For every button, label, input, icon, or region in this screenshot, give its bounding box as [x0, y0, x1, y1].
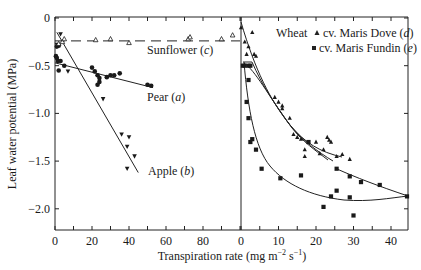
triangle-down-marker-icon	[101, 97, 106, 101]
y-axis-label: Leaf water potential (MPa)	[5, 59, 19, 189]
circle-marker-icon	[58, 59, 63, 64]
triangle-up-marker-icon	[314, 140, 318, 144]
triangle-down-marker-icon	[132, 154, 137, 158]
square-marker-icon	[246, 116, 250, 120]
triangle-down-marker-icon	[119, 132, 124, 136]
circle-marker-icon	[92, 69, 97, 74]
triangle-down-marker-icon	[127, 135, 132, 139]
legend: Wheat cv. Maris Dove (d) cv. Maris Fundi…	[276, 26, 417, 55]
x-tick-label: 0	[238, 234, 244, 248]
triangle-up-marker-icon	[321, 147, 325, 151]
x-tick-label: 20	[86, 234, 98, 248]
triangle-up-marker-icon	[303, 154, 307, 158]
square-marker-icon	[359, 180, 363, 184]
triangle-up-marker-icon	[245, 52, 249, 56]
x-axis-label: Transpiration rate (mg m−2 s−1)	[158, 248, 307, 263]
circle-marker-icon	[112, 73, 117, 78]
legend-entry-maris-fundin: cv. Maris Fundin (e)	[319, 41, 417, 55]
square-marker-icon	[248, 64, 252, 68]
triangle-up-open-marker-icon	[62, 36, 67, 40]
circle-marker-icon	[56, 68, 61, 73]
square-marker-icon	[299, 173, 303, 177]
triangle-up-marker-icon	[273, 95, 277, 99]
legend-entry-maris-dove: cv. Maris Dove (d)	[323, 26, 414, 40]
triangle-up-marker-icon	[291, 132, 295, 136]
circle-marker-icon	[90, 65, 95, 70]
triangle-up-open-marker-icon	[219, 36, 224, 40]
square-marker-icon	[306, 140, 310, 144]
square-marker-icon	[245, 100, 249, 104]
y-tick-label: −0.5	[28, 59, 50, 73]
annotation-apple: Apple (b)	[148, 164, 194, 178]
triangle-down-marker-icon	[125, 167, 130, 171]
x-tick-label: 30	[348, 234, 360, 248]
y-tick-label: 0	[44, 11, 50, 25]
triangle-up-open-marker-icon	[108, 36, 113, 40]
square-marker-icon	[278, 176, 282, 180]
square-marker-icon	[351, 213, 355, 217]
triangle-up-marker-icon	[250, 30, 254, 34]
triangle-up-marker-icon	[246, 44, 250, 48]
circle-marker-icon	[95, 82, 100, 87]
square-marker-icon	[329, 194, 333, 198]
square-marker-icon	[348, 195, 352, 199]
wheat-fundin-fit-curve-third	[337, 169, 408, 196]
square-marker-icon	[254, 148, 258, 152]
triangle-up-marker-icon	[276, 100, 280, 104]
square-marker-icon	[348, 174, 352, 178]
triangle-up-marker-icon	[315, 30, 320, 35]
fit-line	[57, 32, 138, 172]
triangle-down-marker-icon	[125, 145, 130, 149]
wheat-fundin-fit-curve-lower	[244, 62, 408, 201]
x-tick-label: 40	[123, 234, 135, 248]
triangle-up-marker-icon	[325, 135, 329, 139]
triangle-up-open-marker-icon	[230, 33, 235, 37]
square-marker-icon	[260, 167, 264, 171]
annotation-sunflower: Sunflower (c)	[147, 43, 213, 57]
y-tick-label: −1.0	[28, 106, 50, 120]
x-tick-label: 20	[310, 234, 322, 248]
square-marker-icon	[248, 140, 252, 144]
triangle-down-marker-icon	[66, 69, 71, 73]
x-tick-label: 0	[52, 234, 58, 248]
triangle-up-marker-icon	[303, 147, 307, 151]
fit-line	[55, 63, 153, 88]
square-marker-icon	[405, 194, 409, 198]
triangle-up-marker-icon	[288, 116, 292, 120]
legend-header-wheat: Wheat	[276, 26, 308, 40]
x-tick-label: 80	[197, 234, 209, 248]
square-marker-icon	[243, 64, 247, 68]
x-tick-label: 40	[385, 234, 397, 248]
square-marker-icon	[321, 205, 325, 209]
square-marker-icon	[378, 183, 382, 187]
wheat-fundin-fit-curve-upper	[243, 62, 328, 160]
square-marker-icon	[335, 189, 339, 193]
chart: 0−0.5−1.0−1.5−2.0020406080010203040 Leaf…	[0, 0, 421, 270]
circle-marker-icon	[117, 71, 122, 76]
triangle-up-marker-icon	[340, 152, 344, 156]
x-tick-label: 10	[273, 234, 285, 248]
circle-marker-icon	[62, 63, 67, 68]
square-marker-icon	[246, 78, 250, 82]
square-marker-icon	[312, 46, 316, 50]
triangle-up-open-marker-icon	[93, 37, 98, 41]
y-tick-label: −2.0	[28, 202, 50, 216]
annotation-pear: Pear (a)	[147, 90, 185, 104]
wheat-dove-fit-curve-2	[244, 63, 333, 161]
y-tick-label: −1.5	[28, 154, 50, 168]
triangle-up-marker-icon	[348, 157, 352, 161]
circle-marker-icon	[149, 83, 154, 88]
square-marker-icon	[335, 167, 339, 171]
x-tick-label: 60	[160, 234, 172, 248]
